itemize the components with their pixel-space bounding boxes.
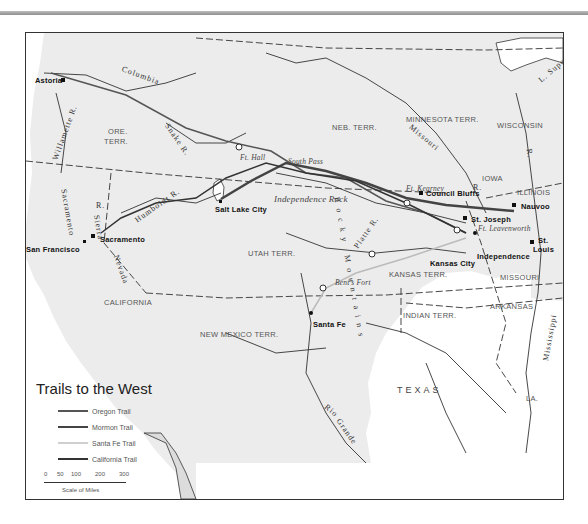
label-kansas-terr: KANSAS TERR.: [389, 270, 447, 279]
scale-bar: 0 50 100 200 300 Scale of Miles: [44, 471, 126, 499]
legend-item-mormon-trail: Mormon Trail: [36, 419, 206, 435]
city-st-joseph: St. Joseph: [471, 215, 511, 224]
scale-tick: 200: [95, 471, 105, 477]
legend-title: Trails to the West: [36, 380, 206, 397]
scale-caption: Scale of Miles: [62, 487, 99, 493]
map-legend: Trails to the West Oregon Trail Mormon T…: [36, 380, 206, 499]
city-sacramento: Sacramento: [100, 235, 145, 244]
label-ft-leavenworth: Ft. Leavenworth: [478, 224, 531, 233]
california-trail-swatch: [58, 458, 88, 460]
label-illinois: ILLINOIS: [517, 188, 550, 197]
label-ft-kearney: Ft. Kearney: [406, 184, 444, 193]
city-santa-fe: Santa Fe: [313, 320, 346, 329]
legend-label: Santa Fe Trail: [92, 440, 136, 447]
map-frame: ORE. TERR. NEB. TERR. MINNESOTA TERR. WI…: [25, 32, 564, 500]
city-nauvoo: Nauvoo: [521, 202, 550, 211]
label-iowa: IOWA: [482, 174, 503, 183]
city-st-louis-line1: St.: [538, 236, 548, 245]
legend-item-oregon-trail: Oregon Trail: [36, 403, 206, 419]
legend-item-california-trail: California Trail: [36, 451, 206, 467]
legend-label: Oregon Trail: [92, 408, 131, 415]
label-la: LA.: [526, 394, 538, 403]
scale-tick: 0: [44, 471, 47, 477]
city-san-francisco: San Francisco: [26, 245, 80, 254]
label-missouri: MISSOURI: [500, 273, 540, 282]
river-r-label: R.: [96, 201, 105, 210]
label-utah-terr: UTAH TERR.: [248, 249, 295, 258]
scale-line: [44, 482, 126, 483]
label-arkansas: ARKANSAS: [490, 302, 533, 311]
scale-tick: 50: [57, 471, 64, 477]
oregon-trail-swatch: [58, 410, 88, 412]
city-st-louis-line2: Louis: [533, 245, 554, 254]
label-california: CALIFORNIA: [104, 298, 152, 307]
legend-label: California Trail: [92, 456, 137, 463]
santa-fe-trail-swatch: [58, 442, 88, 444]
river-mississippi-r: R.: [524, 148, 534, 159]
river-missouri-r: R.: [473, 183, 482, 192]
legend-label: Mormon Trail: [92, 424, 133, 431]
city-astoria: Astoria: [35, 76, 62, 85]
city-kansas-city: Kansas City: [430, 259, 475, 268]
label-ore: ORE.: [108, 127, 128, 136]
label-wisconsin: WISCONSIN: [497, 121, 543, 130]
label-south-pass: South Pass: [288, 157, 323, 166]
city-independence: Independence: [477, 252, 530, 261]
city-salt-lake-city: Salt Lake City: [215, 205, 267, 214]
label-terr: TERR.: [104, 137, 128, 146]
legend-item-santa-fe-trail: Santa Fe Trail: [36, 435, 206, 451]
top-divider-bar: [0, 11, 588, 15]
label-neb-terr: NEB. TERR.: [332, 123, 377, 132]
mormon-trail-swatch: [58, 426, 88, 429]
label-minnesota-terr: MINNESOTA TERR.: [406, 115, 479, 124]
label-ft-hall: Ft. Hall: [240, 153, 265, 162]
label-new-mexico-terr: NEW MEXICO TERR.: [200, 330, 278, 339]
label-indian-terr: INDIAN TERR.: [403, 311, 456, 320]
scale-tick: 300: [119, 471, 129, 477]
label-texas: TEXAS: [397, 385, 442, 395]
scale-tick: 100: [71, 471, 81, 477]
